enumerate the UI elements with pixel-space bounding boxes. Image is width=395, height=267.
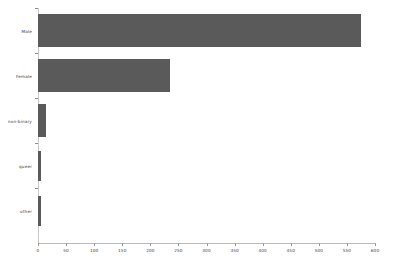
y-tick-mark — [35, 143, 38, 144]
x-tick-mark — [150, 243, 151, 246]
y-axis-label-2: non-binary — [8, 118, 32, 123]
x-tick-label: 50 — [63, 248, 69, 253]
x-tick-label: 350 — [230, 248, 238, 253]
bar-row: queer — [38, 143, 375, 188]
x-tick-mark — [375, 243, 376, 246]
bar-chart: Male Female non-binary queer other 05 — [0, 0, 395, 267]
y-axis-label-1: Female — [16, 73, 32, 78]
bar-female — [38, 59, 170, 92]
bar-other — [38, 196, 41, 226]
x-tick-label: 550 — [343, 248, 351, 253]
x-tick-label: 400 — [259, 248, 267, 253]
x-tick-label: 100 — [90, 248, 98, 253]
x-tick-mark — [178, 243, 179, 246]
x-tick-mark — [38, 243, 39, 246]
y-tick-mark — [35, 188, 38, 189]
x-tick-label: 150 — [118, 248, 126, 253]
x-tick-mark — [66, 243, 67, 246]
x-tick-mark — [263, 243, 264, 246]
y-tick-mark — [35, 53, 38, 54]
x-tick-label: 600 — [371, 248, 379, 253]
x-tick-mark — [207, 243, 208, 246]
bar-non-binary — [38, 104, 46, 137]
x-tick-label: 0 — [37, 248, 40, 253]
x-tick-label: 200 — [146, 248, 154, 253]
bar-row: Male — [38, 8, 375, 53]
bar-row: Female — [38, 53, 375, 98]
x-tick-mark — [122, 243, 123, 246]
y-axis-label-0: Male — [21, 28, 32, 33]
y-tick-mark — [35, 8, 38, 9]
bar-queer — [38, 151, 41, 181]
x-tick-mark — [291, 243, 292, 246]
x-tick-mark — [94, 243, 95, 246]
x-tick-label: 450 — [287, 248, 295, 253]
x-tick-mark — [347, 243, 348, 246]
x-tick-label: 300 — [202, 248, 210, 253]
plot-area: Male Female non-binary queer other — [38, 8, 375, 243]
x-tick-label: 500 — [315, 248, 323, 253]
y-axis-label-3: queer — [19, 163, 32, 168]
bar-row: other — [38, 188, 375, 233]
x-tick-mark — [235, 243, 236, 246]
x-tick-mark — [319, 243, 320, 246]
bar-male — [38, 14, 361, 47]
y-tick-mark — [35, 98, 38, 99]
y-axis-label-4: other — [20, 208, 32, 213]
bar-row: non-binary — [38, 98, 375, 143]
x-tick-label: 250 — [174, 248, 182, 253]
